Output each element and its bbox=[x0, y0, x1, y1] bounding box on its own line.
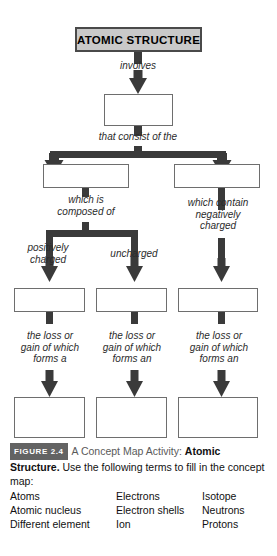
blank-level-1[interactable] bbox=[104, 94, 173, 126]
edge-label-loss-gain-forms-an-center: the loss or gain of which forms an bbox=[92, 330, 172, 365]
arrowhead-l4-left bbox=[41, 370, 58, 397]
blank-level-2-right[interactable] bbox=[174, 164, 260, 188]
arrowhead-uncharged bbox=[126, 256, 143, 282]
blank-level-3-right[interactable] bbox=[178, 288, 258, 312]
connector-stub-l3-center bbox=[131, 312, 138, 324]
caption-activity-label: A Concept Map Activity: bbox=[72, 445, 182, 457]
edge-label-which-contain-negatively-charged: which contain negatively charged bbox=[172, 197, 264, 232]
connector-stem-right-branch-2 bbox=[218, 238, 225, 258]
edge-label-involves: involves bbox=[98, 60, 178, 72]
connector-stub-l3-left bbox=[46, 312, 53, 324]
edge-label-that-consist-of-the: that consist of the bbox=[78, 131, 198, 143]
term-item: Electron shells bbox=[116, 503, 202, 517]
arrowhead-involves bbox=[129, 70, 147, 94]
term-item: Different element bbox=[10, 517, 116, 531]
caption-paragraph: FIGURE 2.4A Concept Map Activity: Atomic… bbox=[10, 443, 268, 488]
edge-label-loss-gain-forms-a: the loss or gain of which forms a bbox=[10, 330, 90, 365]
split-bar-mid bbox=[46, 230, 138, 237]
node-atomic-structure: ATOMIC STRUCTURE bbox=[75, 27, 202, 52]
term-column-3: Isotope Neutrons Protons bbox=[202, 489, 272, 531]
term-item: Protons bbox=[202, 517, 272, 531]
term-item: Atoms bbox=[10, 489, 116, 503]
blank-level-2-left[interactable] bbox=[43, 164, 129, 188]
blank-level-3-center[interactable] bbox=[96, 288, 167, 312]
edge-label-positively-charged: positively charged bbox=[14, 242, 82, 265]
term-bank: Atoms Atomic nucleus Different element E… bbox=[10, 489, 272, 531]
arrowhead-l4-center bbox=[126, 370, 143, 397]
term-item: Neutrons bbox=[202, 503, 272, 517]
edge-label-which-is-composed-of: which is composed of bbox=[40, 194, 132, 217]
arrowhead-right-branch bbox=[213, 258, 230, 282]
term-item: Ion bbox=[116, 517, 202, 531]
figure-number-badge: FIGURE 2.4 bbox=[10, 443, 68, 460]
node-atomic-structure-label: ATOMIC STRUCTURE bbox=[77, 34, 200, 46]
concept-map-diagram: ATOMIC STRUCTURE involves that consist o… bbox=[0, 0, 277, 440]
blank-level-4-left[interactable] bbox=[14, 397, 85, 438]
edge-label-loss-gain-forms-an-right: the loss or gain of which forms an bbox=[179, 330, 259, 365]
split-bar-mid-stem bbox=[82, 222, 89, 233]
figure-caption: FIGURE 2.4A Concept Map Activity: Atomic… bbox=[10, 443, 268, 488]
arrowhead-l4-right bbox=[213, 370, 230, 397]
blank-level-4-right[interactable] bbox=[178, 397, 258, 438]
term-item: Atomic nucleus bbox=[10, 503, 116, 517]
blank-level-4-center[interactable] bbox=[96, 397, 167, 438]
blank-level-3-left[interactable] bbox=[14, 288, 85, 312]
edge-label-uncharged: uncharged bbox=[100, 248, 168, 260]
connector-stub-l3-right bbox=[218, 312, 225, 324]
term-item: Isotope bbox=[202, 489, 272, 503]
split-bar-top-stem bbox=[134, 146, 142, 154]
term-column-2: Electrons Electron shells Ion bbox=[116, 489, 202, 531]
term-item: Electrons bbox=[116, 489, 202, 503]
term-column-1: Atoms Atomic nucleus Different element bbox=[10, 489, 116, 531]
